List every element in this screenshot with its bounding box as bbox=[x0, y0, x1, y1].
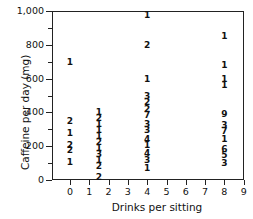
data-point-count: 1 bbox=[142, 75, 152, 83]
x-tick-label: 6 bbox=[180, 187, 192, 197]
x-tick-label: 1 bbox=[83, 187, 95, 197]
y-axis-title: Caffeine per day (mg) bbox=[19, 55, 31, 170]
y-tick bbox=[46, 146, 52, 147]
y-tick bbox=[46, 79, 52, 80]
x-tick-label: 3 bbox=[122, 187, 134, 197]
data-point-count: 1 bbox=[219, 81, 229, 89]
x-tick-label: 2 bbox=[103, 187, 115, 197]
caffeine-scatter-chart: 02004006008001,000 0123456789 Caffeine p… bbox=[0, 0, 253, 219]
y-minor-tick bbox=[48, 163, 52, 164]
y-minor-tick bbox=[48, 28, 52, 29]
data-point-count: 1 bbox=[219, 32, 229, 40]
data-point-count: 9 bbox=[219, 110, 229, 118]
x-tick bbox=[128, 180, 129, 185]
data-point-count: 2 bbox=[65, 146, 75, 154]
x-axis-title: Drinks per sitting bbox=[57, 201, 253, 213]
x-tick-label: 4 bbox=[141, 187, 153, 197]
x-tick bbox=[109, 180, 110, 185]
x-tick-label: 9 bbox=[238, 187, 250, 197]
y-tick-label: 1,000 bbox=[4, 6, 44, 16]
data-point-count: 1 bbox=[65, 58, 75, 66]
x-tick bbox=[147, 180, 148, 185]
data-point-count: 1 bbox=[65, 158, 75, 166]
data-point-count: 7 bbox=[142, 111, 152, 119]
x-tick bbox=[167, 180, 168, 185]
x-tick bbox=[224, 180, 225, 185]
data-point-count: 1 bbox=[142, 11, 152, 19]
x-tick bbox=[244, 180, 245, 185]
y-minor-tick bbox=[48, 129, 52, 130]
y-tick-label: 800 bbox=[4, 40, 44, 50]
data-point-count: 1 bbox=[219, 61, 229, 69]
data-point-count: 2 bbox=[94, 173, 104, 181]
x-tick bbox=[89, 180, 90, 185]
x-tick bbox=[186, 180, 187, 185]
x-tick bbox=[205, 180, 206, 185]
y-tick bbox=[46, 11, 52, 12]
x-tick-label: 8 bbox=[218, 187, 230, 197]
x-tick-label: 7 bbox=[199, 187, 211, 197]
data-point-count: 1 bbox=[219, 135, 229, 143]
y-tick bbox=[46, 180, 52, 181]
data-point-count: 2 bbox=[94, 162, 104, 170]
y-minor-tick bbox=[48, 96, 52, 97]
data-point-count: 1 bbox=[142, 164, 152, 172]
y-tick bbox=[46, 45, 52, 46]
data-point-count: 1 bbox=[65, 129, 75, 137]
x-tick-label: 5 bbox=[161, 187, 173, 197]
data-point-count: 3 bbox=[219, 159, 229, 167]
y-tick-label: 0 bbox=[4, 175, 44, 185]
y-minor-tick bbox=[48, 62, 52, 63]
data-point-count: 2 bbox=[65, 117, 75, 125]
data-point-count: 2 bbox=[142, 41, 152, 49]
y-tick bbox=[46, 112, 52, 113]
x-tick-label: 0 bbox=[64, 187, 76, 197]
x-tick bbox=[70, 180, 71, 185]
